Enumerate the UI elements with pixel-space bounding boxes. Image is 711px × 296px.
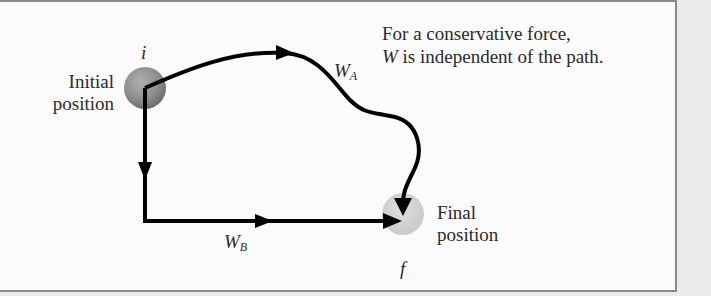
- caption-line-2: W is independent of the path.: [382, 45, 604, 68]
- initial-label-line-2: position: [40, 93, 114, 115]
- initial-position-label: Initial position: [40, 71, 114, 115]
- figure-stage: For a conservative force, W is independe…: [0, 0, 711, 296]
- path-a-subscript: A: [350, 69, 357, 83]
- path-b-work-symbol: W: [224, 231, 240, 252]
- final-label-line-2: position: [437, 224, 498, 246]
- path-b-subscript: B: [240, 240, 247, 254]
- path-b-down-arrow-icon: [138, 162, 152, 180]
- path-a-label: WA: [334, 60, 357, 87]
- path-a-work-symbol: W: [334, 60, 350, 81]
- caption: For a conservative force, W is independe…: [382, 22, 604, 68]
- final-label-line-1: Final: [437, 202, 498, 224]
- path-a-arrow-icon: [276, 45, 294, 60]
- initial-label-line-1: Initial: [40, 71, 114, 93]
- path-a-curve: [145, 53, 419, 210]
- caption-line-2-text: is independent of the path.: [398, 46, 604, 67]
- path-b-label: WB: [224, 231, 247, 258]
- path-b-mid-arrow-icon: [255, 214, 273, 228]
- final-symbol: f: [400, 258, 405, 280]
- caption-work-symbol: W: [382, 46, 398, 67]
- caption-line-1: For a conservative force,: [382, 22, 604, 45]
- final-position-label: Final position: [437, 202, 498, 246]
- path-diagram: [0, 0, 711, 296]
- initial-symbol: i: [141, 42, 146, 64]
